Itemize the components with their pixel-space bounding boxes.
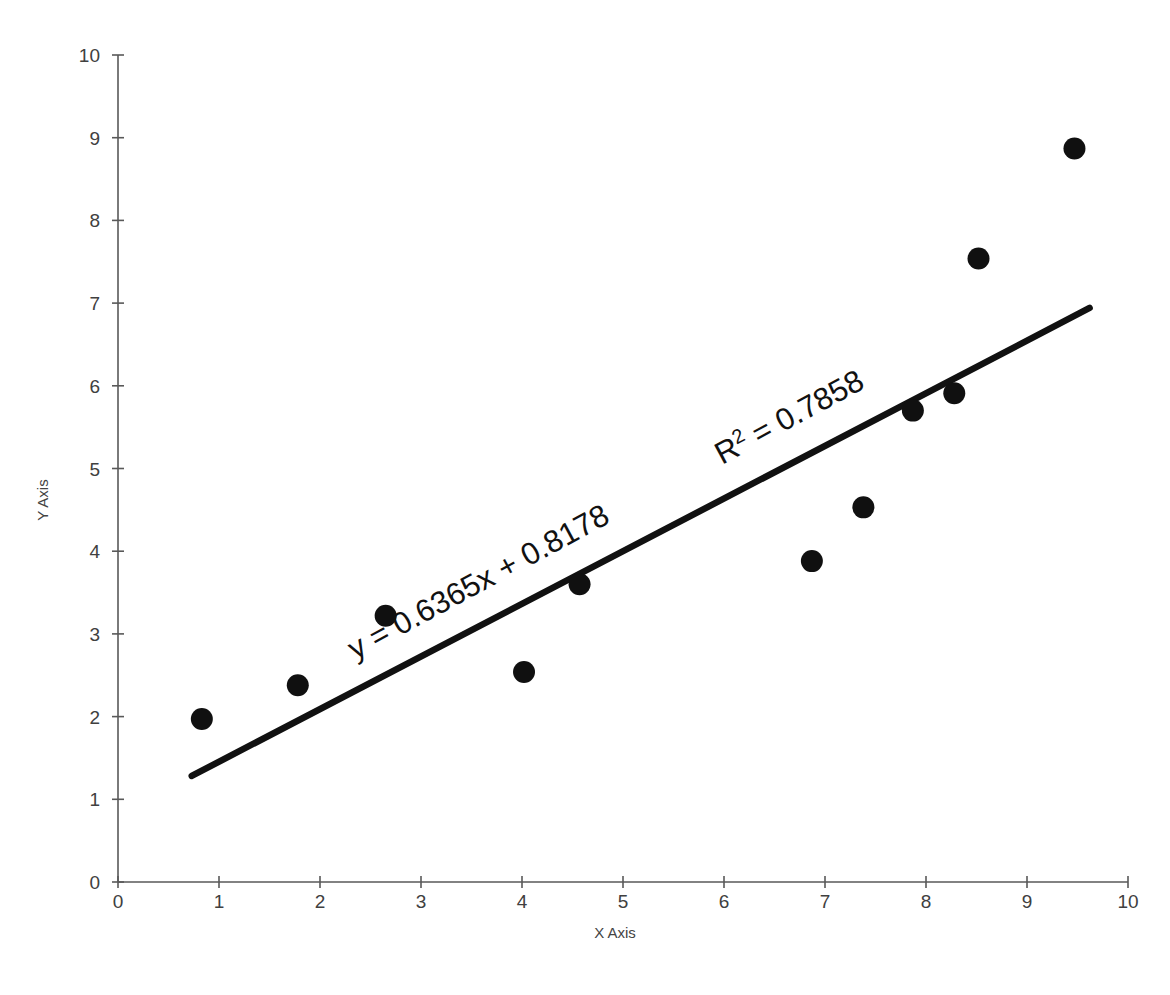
axes-group xyxy=(118,55,1128,882)
r-squared-label: R2 = 0.7858 xyxy=(708,362,869,471)
data-point xyxy=(513,661,535,683)
x-tick-label: 3 xyxy=(416,891,427,912)
y-tick-label: 5 xyxy=(89,459,100,480)
y-tick-label: 6 xyxy=(89,376,100,397)
data-point xyxy=(191,708,213,730)
y-tick-label: 3 xyxy=(89,624,100,645)
data-point xyxy=(968,247,990,269)
y-tick-label: 2 xyxy=(89,707,100,728)
x-tick-label: 9 xyxy=(1022,891,1033,912)
y-axis-title: Y Axis xyxy=(34,479,51,520)
y-tick-label: 0 xyxy=(89,872,100,893)
y-tick-label: 9 xyxy=(89,128,100,149)
y-tick-label: 4 xyxy=(89,541,100,562)
data-point xyxy=(569,573,591,595)
x-tick-label: 6 xyxy=(719,891,730,912)
scatter-chart: 012345678910 012345678910 y = 0.6365x + … xyxy=(0,0,1170,995)
annotation-group: y = 0.6365x + 0.8178 R2 = 0.7858 xyxy=(342,362,870,666)
x-tick-label: 5 xyxy=(618,891,629,912)
y-tick-label: 10 xyxy=(79,45,100,66)
data-point xyxy=(852,496,874,518)
x-tick-label: 4 xyxy=(517,891,528,912)
data-points-group xyxy=(191,137,1086,730)
x-tick-label: 10 xyxy=(1117,891,1138,912)
x-tick-label: 1 xyxy=(214,891,225,912)
data-point xyxy=(801,550,823,572)
x-tick-label: 0 xyxy=(113,891,124,912)
x-axis-title: X Axis xyxy=(594,924,636,941)
y-tick-label: 8 xyxy=(89,210,100,231)
x-tick-label: 7 xyxy=(820,891,831,912)
trendline-group xyxy=(192,308,1090,776)
data-point xyxy=(1063,137,1085,159)
data-point xyxy=(287,674,309,696)
y-tick-label: 1 xyxy=(89,789,100,810)
plot-area: 012345678910 012345678910 y = 0.6365x + … xyxy=(0,0,1170,995)
x-tick-label: 8 xyxy=(921,891,932,912)
trendline xyxy=(192,308,1090,776)
data-point xyxy=(943,382,965,404)
x-tick-label: 2 xyxy=(315,891,326,912)
data-point xyxy=(902,400,924,422)
y-tick-label: 7 xyxy=(89,293,100,314)
